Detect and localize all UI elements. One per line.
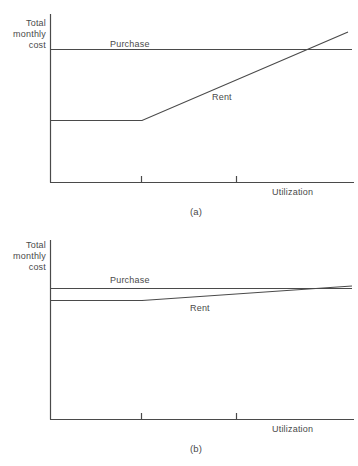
chart-b-x-axis-title: Utilization bbox=[272, 424, 313, 435]
chart-a-y-axis-title-line1: Total bbox=[26, 18, 46, 28]
chart-b-rent-annotation: Rent bbox=[190, 303, 210, 314]
chart-b-caption: (b) bbox=[176, 443, 216, 454]
chart-b-y-axis-title: Totalmonthlycost bbox=[2, 240, 46, 273]
chart-a-purchase-annotation: Purchase bbox=[110, 39, 150, 50]
chart-a-x-axis-title: Utilization bbox=[272, 187, 313, 198]
chart-a-y-axis-title-line3: cost bbox=[29, 40, 46, 50]
chart-a-y-axis-title-line2: monthly bbox=[13, 29, 46, 39]
chart-lines-svg bbox=[0, 0, 358, 466]
chart-a-caption: (a) bbox=[176, 206, 216, 217]
figure-rent-vs-purchase: Totalmonthlycost Purchase Rent Utilizati… bbox=[0, 0, 358, 466]
chart-a-series-rent bbox=[50, 32, 348, 121]
chart-b-y-axis-title-line1: Total bbox=[26, 240, 46, 250]
chart-b-purchase-annotation: Purchase bbox=[110, 275, 150, 286]
chart-b-y-axis-title-line3: cost bbox=[29, 262, 46, 272]
chart-a-rent-annotation: Rent bbox=[212, 92, 232, 103]
chart-b-y-axis-title-line2: monthly bbox=[13, 251, 46, 261]
chart-a-y-axis-title: Totalmonthlycost bbox=[2, 18, 46, 51]
